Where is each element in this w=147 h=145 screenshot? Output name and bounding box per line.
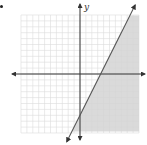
y-axis-label: y [83, 2, 90, 12]
inequality-graph: y [0, 0, 147, 145]
